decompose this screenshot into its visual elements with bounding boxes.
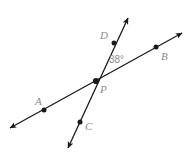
point-dot-d	[112, 41, 117, 46]
diagram-canvas	[0, 0, 191, 159]
point-label-a: A	[35, 96, 42, 107]
point-dot-c	[78, 120, 83, 125]
geometry-figure: A B C D P 38°	[0, 0, 191, 159]
point-label-d: D	[100, 30, 108, 41]
point-dot-p	[93, 78, 99, 84]
point-label-b: B	[161, 51, 168, 62]
point-label-p: P	[100, 84, 107, 95]
point-label-c: C	[85, 121, 92, 132]
point-dot-b	[154, 45, 159, 50]
angle-measure-label: 38°	[109, 55, 124, 65]
point-dot-a	[42, 108, 47, 113]
